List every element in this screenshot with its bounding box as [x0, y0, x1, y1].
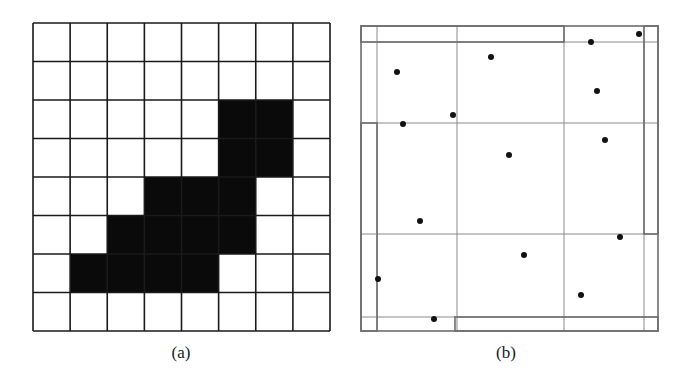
data-point	[617, 234, 623, 240]
data-point	[594, 88, 600, 94]
data-point	[431, 316, 437, 322]
bottom-strip-box	[455, 317, 658, 331]
filled-cell	[144, 216, 181, 255]
top-strip-box	[361, 26, 564, 42]
data-point	[394, 69, 400, 75]
filled-cell	[182, 254, 219, 293]
panel-a-grid	[33, 23, 330, 331]
panel-b-spatial-partition	[361, 26, 658, 331]
filled-cell	[107, 254, 144, 293]
data-point	[578, 292, 584, 298]
data-point	[636, 31, 642, 37]
filled-cell	[107, 216, 144, 255]
caption-a: (a)	[172, 343, 191, 363]
filled-cell	[182, 216, 219, 255]
filled-cell	[256, 139, 293, 178]
right-strip-box	[644, 26, 658, 234]
figure	[0, 0, 689, 387]
data-point	[450, 112, 456, 118]
caption-b: (b)	[496, 343, 516, 363]
data-point	[375, 276, 381, 282]
filled-cell	[219, 100, 256, 139]
data-point	[417, 218, 423, 224]
data-point	[588, 39, 594, 45]
filled-cell	[144, 177, 181, 216]
filled-cell	[219, 216, 256, 255]
filled-cell	[219, 139, 256, 178]
outer-box	[361, 26, 658, 331]
data-point	[506, 152, 512, 158]
filled-cell	[144, 254, 181, 293]
left-strip-box	[361, 123, 377, 331]
data-point	[488, 54, 494, 60]
filled-cell	[256, 100, 293, 139]
data-point	[400, 121, 406, 127]
data-point	[602, 137, 608, 143]
filled-cell	[219, 177, 256, 216]
filled-cell	[182, 177, 219, 216]
data-point	[521, 252, 527, 258]
filled-cell	[70, 254, 107, 293]
